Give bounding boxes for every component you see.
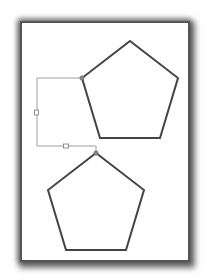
connector-adjust-handle-vertical[interactable] [35,110,39,115]
connector-adjust-handle-horizontal[interactable] [64,144,69,148]
diagram-canvas [0,0,206,279]
pentagon-top[interactable] [82,41,178,138]
connector-start-point[interactable] [80,76,84,80]
pentagon-bottom[interactable] [48,153,144,250]
connector-end-point[interactable] [94,151,98,155]
